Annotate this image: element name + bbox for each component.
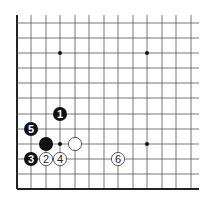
black-stone — [39, 137, 53, 151]
white-stone-4: 4 — [53, 152, 66, 165]
move-number: 2 — [43, 153, 49, 165]
white-stone-6: 6 — [111, 152, 124, 165]
white-stone-2: 2 — [39, 152, 52, 165]
go-board: 123456 — [0, 0, 210, 206]
star-point — [58, 142, 62, 146]
move-number: 1 — [57, 108, 63, 120]
move-number: 5 — [28, 123, 34, 135]
white-stone — [68, 137, 81, 150]
black-stone-3: 3 — [24, 152, 38, 166]
move-number: 6 — [115, 153, 121, 165]
stones: 123456 — [24, 107, 125, 166]
black-stone-1: 1 — [53, 107, 67, 121]
star-point — [145, 142, 149, 146]
black-stone-5: 5 — [24, 122, 38, 136]
move-number: 3 — [28, 153, 34, 165]
star-point — [58, 51, 62, 55]
move-number: 4 — [57, 153, 63, 165]
star-point — [145, 51, 149, 55]
star-points — [58, 51, 149, 146]
